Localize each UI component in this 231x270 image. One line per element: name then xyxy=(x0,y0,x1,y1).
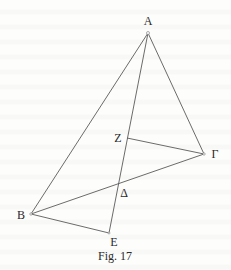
label-E: E xyxy=(110,235,117,249)
label-Gamma: Γ xyxy=(212,147,219,161)
vertex-E xyxy=(108,232,110,234)
label-A: A xyxy=(144,14,153,28)
labels: A Z Γ Δ B E xyxy=(17,14,219,249)
figure-caption: Fig. 17 xyxy=(98,249,132,263)
vertex-B xyxy=(30,213,32,215)
label-Z: Z xyxy=(114,131,121,145)
segment-ZG xyxy=(127,138,204,154)
segment-BG xyxy=(31,154,204,214)
segment-BE xyxy=(31,214,109,233)
label-Delta: Δ xyxy=(120,186,128,200)
vertex-A xyxy=(147,32,150,35)
segment-AG xyxy=(148,33,204,154)
vertex-G xyxy=(203,153,205,155)
geometry-diagram: A Z Γ Δ B E Fig. 17 xyxy=(0,0,231,270)
label-B: B xyxy=(17,208,25,222)
